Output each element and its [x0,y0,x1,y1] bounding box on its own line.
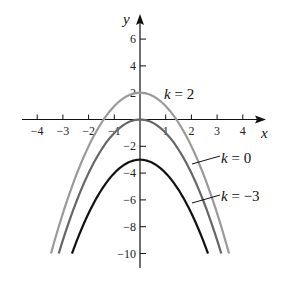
x-tick-label: 2 [188,124,194,138]
x-tick-label: −1 [108,124,121,138]
y-tick-label: −10 [117,247,136,261]
x-tick-label: 3 [214,124,220,138]
x-tick-label: −3 [57,124,70,138]
y-tick-label: 6 [130,32,136,46]
y-ticks: 642−2−4−6−8−10 [117,32,146,260]
y-axis-label: y [121,11,130,27]
x-tick-label: 4 [240,124,246,138]
y-tick-label: −6 [123,193,136,207]
curve-label-k2: k = 2 [164,86,194,102]
y-tick-label: −8 [123,220,136,234]
curve-label-k-3: k = −3 [221,188,260,204]
leader-line-k-3 [192,195,220,203]
x-ticks: −4−3−2−11234 [31,115,246,138]
curve-label-k0: k = 0 [221,150,251,166]
y-tick-label: −4 [123,166,136,180]
x-axis-label: x [260,125,268,141]
chart: x y −4−3−2−11234 642−2−4−6−8−10 k = 2 k … [0,0,293,293]
x-tick-label: −4 [31,124,44,138]
y-tick-label: −2 [123,139,136,153]
curve-labels: k = 2 k = 0 k = −3 [164,86,260,204]
y-tick-label: 4 [130,59,136,73]
